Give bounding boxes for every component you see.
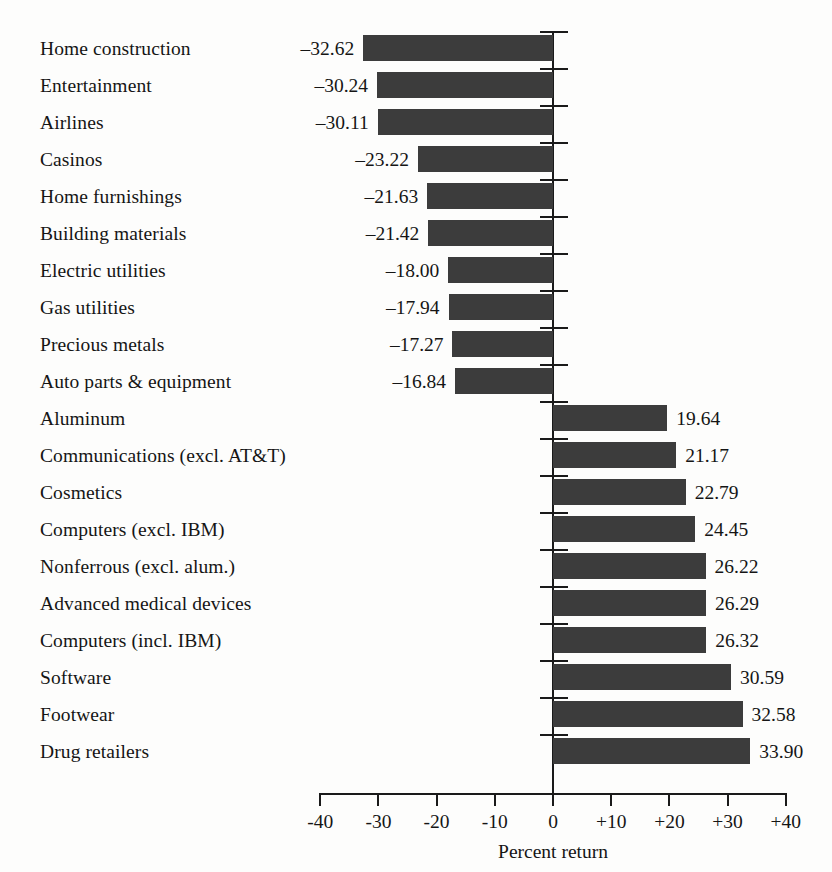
value-label: –21.63: [365, 178, 419, 215]
x-axis-tick: [377, 793, 379, 806]
value-label: –18.00: [386, 252, 440, 289]
zero-axis-tick: [540, 364, 568, 366]
value-label: –30.24: [314, 67, 368, 104]
chart-row: Casinos–23.22: [0, 141, 832, 178]
zero-axis-tick: [540, 697, 568, 699]
bar: [448, 257, 553, 283]
x-axis-tick: [668, 793, 670, 806]
category-label: Home furnishings: [40, 178, 182, 215]
x-axis-tick: [494, 793, 496, 806]
category-label: Airlines: [40, 104, 104, 141]
value-label: –17.27: [390, 326, 444, 363]
category-label: Electric utilities: [40, 252, 166, 289]
zero-axis-tick: [540, 105, 568, 107]
x-axis-tick-label: -40: [307, 812, 333, 832]
bar: [428, 220, 553, 246]
category-label: Aluminum: [40, 400, 125, 437]
bar: [553, 590, 706, 616]
category-label: Computers (incl. IBM): [40, 622, 221, 659]
x-axis-tick: [436, 793, 438, 806]
bar: [553, 627, 706, 653]
chart-row: Cosmetics22.79: [0, 474, 832, 511]
x-axis-tick-label: -10: [482, 812, 508, 832]
zero-axis-tick: [540, 660, 568, 662]
value-label: 32.58: [752, 696, 796, 733]
value-label: 26.32: [715, 622, 759, 659]
value-label: 19.64: [676, 400, 720, 437]
chart-row: Aluminum19.64: [0, 400, 832, 437]
value-label: 33.90: [759, 733, 803, 770]
zero-axis-tick: [540, 734, 568, 736]
bar: [455, 368, 553, 394]
category-label: Entertainment: [40, 67, 152, 104]
zero-axis-tick: [540, 142, 568, 144]
chart-row: Home construction–32.62: [0, 30, 832, 67]
x-axis-tick: [785, 793, 787, 806]
x-axis-tick-label: -30: [365, 812, 391, 832]
x-axis-tick-label: +10: [596, 812, 627, 832]
chart-row: Footwear32.58: [0, 696, 832, 733]
value-label: –21.42: [366, 215, 420, 252]
bar: [553, 664, 731, 690]
x-axis-tick-label: +30: [712, 812, 743, 832]
x-axis-tick-label: -20: [424, 812, 450, 832]
chart-row: Electric utilities–18.00: [0, 252, 832, 289]
bar: [553, 738, 750, 764]
chart-row: Software30.59: [0, 659, 832, 696]
value-label: 26.22: [715, 548, 759, 585]
zero-axis-tick: [540, 586, 568, 588]
bar: [427, 183, 553, 209]
zero-axis-tick: [540, 401, 568, 403]
category-label: Advanced medical devices: [40, 585, 251, 622]
bar-chart-figure: Percent return Home construction–32.62En…: [0, 0, 832, 872]
zero-axis-tick: [540, 31, 568, 33]
value-label: –16.84: [392, 363, 446, 400]
value-label: 21.17: [685, 437, 729, 474]
category-label: Cosmetics: [40, 474, 122, 511]
bar: [363, 35, 553, 61]
zero-axis-tick: [540, 623, 568, 625]
category-label: Drug retailers: [40, 733, 149, 770]
x-axis-tick: [319, 793, 321, 806]
chart-row: Precious metals–17.27: [0, 326, 832, 363]
zero-axis-tick: [540, 68, 568, 70]
value-label: –30.11: [316, 104, 369, 141]
category-label: Precious metals: [40, 326, 164, 363]
category-label: Computers (excl. IBM): [40, 511, 225, 548]
zero-axis-tick: [540, 290, 568, 292]
bar: [378, 109, 553, 135]
chart-row: Communications (excl. AT&T)21.17: [0, 437, 832, 474]
bar: [553, 479, 686, 505]
chart-row: Gas utilities–17.94: [0, 289, 832, 326]
x-axis-tick: [552, 793, 554, 806]
x-axis-tick: [610, 793, 612, 806]
x-axis-tick-label: +40: [771, 812, 802, 832]
chart-row: Entertainment–30.24: [0, 67, 832, 104]
category-label: Casinos: [40, 141, 102, 178]
value-label: 22.79: [695, 474, 739, 511]
zero-axis-tick: [540, 549, 568, 551]
chart-row: Computers (excl. IBM)24.45: [0, 511, 832, 548]
x-axis-tick: [727, 793, 729, 806]
chart-row: Building materials–21.42: [0, 215, 832, 252]
value-label: –32.62: [301, 30, 355, 67]
category-label: Communications (excl. AT&T): [40, 437, 286, 474]
category-label: Gas utilities: [40, 289, 135, 326]
bar: [377, 72, 553, 98]
category-label: Footwear: [40, 696, 114, 733]
x-axis-title: Percent return: [498, 842, 608, 862]
zero-axis-tick: [540, 327, 568, 329]
zero-axis-tick: [540, 216, 568, 218]
zero-axis-tick: [540, 179, 568, 181]
bar: [553, 442, 676, 468]
bar: [452, 331, 553, 357]
bar: [553, 553, 706, 579]
category-label: Auto parts & equipment: [40, 363, 231, 400]
value-label: 26.29: [715, 585, 759, 622]
category-label: Nonferrous (excl. alum.): [40, 548, 235, 585]
x-axis-tick-label: 0: [548, 812, 558, 832]
bar: [553, 405, 667, 431]
category-label: Software: [40, 659, 111, 696]
bar: [553, 516, 695, 542]
value-label: –17.94: [386, 289, 440, 326]
